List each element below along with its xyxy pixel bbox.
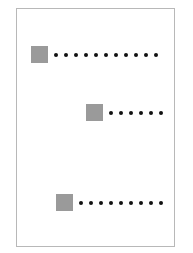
gray-square — [31, 46, 48, 63]
dot — [129, 111, 133, 115]
dot — [119, 201, 123, 205]
dot — [159, 201, 163, 205]
dot — [109, 111, 113, 115]
dot — [144, 53, 148, 57]
dot — [94, 53, 98, 57]
dot — [114, 53, 118, 57]
gray-square — [86, 104, 103, 121]
dot — [109, 201, 113, 205]
dot — [104, 53, 108, 57]
dot — [129, 201, 133, 205]
gray-square — [56, 194, 73, 211]
dot — [134, 53, 138, 57]
dot — [154, 53, 158, 57]
marker-row — [86, 104, 163, 121]
dot — [119, 111, 123, 115]
dot — [159, 111, 163, 115]
marker-row — [56, 194, 163, 211]
dot — [79, 201, 83, 205]
dot — [124, 53, 128, 57]
dot — [99, 201, 103, 205]
dot — [84, 53, 88, 57]
dot — [54, 53, 58, 57]
diagram-frame — [16, 8, 175, 247]
dotted-line — [109, 111, 163, 115]
dot — [139, 201, 143, 205]
dot — [149, 111, 153, 115]
dot — [64, 53, 68, 57]
dot — [89, 201, 93, 205]
dot — [139, 111, 143, 115]
dot — [149, 201, 153, 205]
dot — [74, 53, 78, 57]
dotted-line — [79, 201, 163, 205]
marker-row — [31, 46, 158, 63]
dotted-line — [54, 53, 158, 57]
